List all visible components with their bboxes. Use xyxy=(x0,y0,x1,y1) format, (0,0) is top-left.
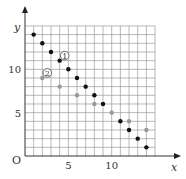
series-labels: 12 xyxy=(43,51,69,78)
data-points xyxy=(31,32,148,149)
data-point xyxy=(92,93,96,97)
data-point xyxy=(49,50,53,54)
x-axis-arrow-icon xyxy=(174,153,181,159)
series-label: 2 xyxy=(45,69,50,78)
data-point xyxy=(144,128,148,132)
data-point xyxy=(144,145,148,149)
y-tick-label: 5 xyxy=(15,108,21,119)
y-axis-label: y xyxy=(13,21,21,34)
data-point xyxy=(136,136,140,140)
data-point xyxy=(101,102,105,106)
data-point xyxy=(83,84,87,88)
y-tick-label: 10 xyxy=(8,64,21,75)
origin-label: O xyxy=(12,154,21,167)
data-point xyxy=(92,102,96,106)
series-label: 1 xyxy=(62,52,67,61)
axes: x y O xyxy=(12,6,181,174)
data-point xyxy=(66,67,70,71)
data-point xyxy=(31,32,35,36)
y-axis-arrow-icon xyxy=(22,6,28,13)
data-point xyxy=(118,119,122,123)
data-point xyxy=(75,76,79,80)
x-tick-label: 10 xyxy=(105,160,118,171)
grid xyxy=(25,26,155,156)
data-point xyxy=(57,84,61,88)
x-axis-label: x xyxy=(171,161,178,174)
data-point xyxy=(127,128,131,132)
data-point xyxy=(40,41,44,45)
scatter-chart: x y O 510510 12 xyxy=(0,0,186,179)
x-tick-label: 5 xyxy=(65,160,71,171)
data-point xyxy=(127,119,131,123)
data-point xyxy=(110,110,114,114)
data-point xyxy=(75,93,79,97)
